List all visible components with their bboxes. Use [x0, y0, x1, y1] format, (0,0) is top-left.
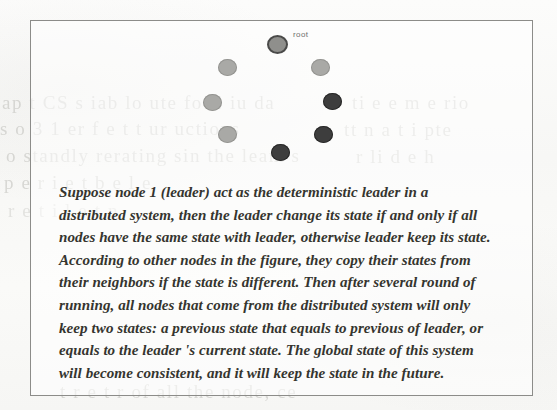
graph-node-n7: [314, 126, 333, 143]
graph-node-n5: [323, 93, 342, 110]
figure-caption: Suppose node 1 (leader) act as the deter…: [59, 181, 491, 384]
node-graph: root: [31, 21, 534, 161]
root-node-label: root: [293, 30, 308, 39]
graph-node-root: [267, 35, 288, 54]
caption-text: Suppose node 1 (leader) act as the deter…: [59, 181, 491, 384]
graph-node-n3: [311, 59, 330, 76]
graph-node-n2: [218, 59, 237, 76]
graph-node-n4: [203, 94, 222, 111]
figure-box: root Suppose node 1 (leader) act as the …: [30, 20, 533, 396]
graph-node-n8: [271, 144, 290, 161]
graph-node-n6: [218, 126, 237, 143]
